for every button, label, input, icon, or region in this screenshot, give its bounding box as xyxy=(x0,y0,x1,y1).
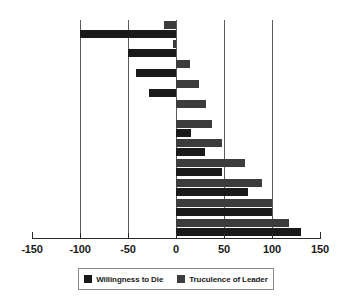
bar-willingness-4 xyxy=(149,89,176,97)
bar-willingness-7 xyxy=(176,148,205,156)
x-tick-label-150: 150 xyxy=(296,243,344,255)
x-tick--100 xyxy=(80,233,81,239)
x-tick-label--150: -150 xyxy=(8,243,56,255)
x-tick-100 xyxy=(272,233,273,239)
bar-willingness-3 xyxy=(136,69,176,77)
x-tick--150 xyxy=(32,232,33,239)
x-tick-label-0: 0 xyxy=(152,243,200,255)
x-tick-0 xyxy=(176,233,177,239)
plot-area xyxy=(32,20,320,238)
x-tick-label--50: -50 xyxy=(104,243,152,255)
bar-willingness-10 xyxy=(176,208,272,216)
bar-truculence-11 xyxy=(176,219,289,227)
bar-willingness-11 xyxy=(176,228,301,236)
bar-truculence-8 xyxy=(176,159,245,167)
legend-swatch-willingness xyxy=(84,275,92,283)
chart-legend: Willingness to Die Truculence of Leader xyxy=(78,268,274,290)
legend-item-willingness[interactable]: Willingness to Die xyxy=(84,275,163,284)
bar-willingness-9 xyxy=(176,188,248,196)
bar-willingness-1 xyxy=(80,30,176,38)
bar-truculence-3 xyxy=(176,60,190,68)
legend-item-truculence[interactable]: Truculence of Leader xyxy=(177,275,267,284)
legend-label-willingness: Willingness to Die xyxy=(96,275,163,284)
bar-truculence-4 xyxy=(176,80,199,88)
gridline-100 xyxy=(272,20,273,238)
gridline--100 xyxy=(80,20,81,238)
x-tick-50 xyxy=(224,233,225,239)
x-tick-label--100: -100 xyxy=(56,243,104,255)
bar-willingness-6 xyxy=(176,129,191,137)
x-tick-150 xyxy=(320,232,321,239)
bar-truculence-7 xyxy=(176,139,222,147)
bar-truculence-1 xyxy=(164,21,176,29)
bar-truculence-2 xyxy=(173,40,176,48)
bar-willingness-2 xyxy=(128,49,176,57)
legend-label-truculence: Truculence of Leader xyxy=(189,275,267,284)
legend-swatch-truculence xyxy=(177,275,185,283)
bar-chart: -150-100-50050100150 Willingness to Die … xyxy=(0,0,351,307)
bar-willingness-8 xyxy=(176,168,222,176)
x-tick-label-100: 100 xyxy=(248,243,296,255)
x-tick-label-50: 50 xyxy=(200,243,248,255)
x-tick--50 xyxy=(128,233,129,239)
bar-truculence-9 xyxy=(176,179,262,187)
bar-truculence-6 xyxy=(176,120,212,128)
bar-truculence-5 xyxy=(176,100,206,108)
bar-truculence-10 xyxy=(176,199,272,207)
